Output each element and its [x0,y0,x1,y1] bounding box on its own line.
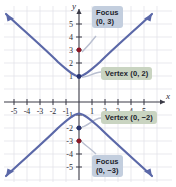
x-axis [4,99,165,105]
point-vertex-top [77,74,82,79]
x-tick--5: -5 [11,107,18,116]
hyperbola-figure: .gridline{stroke:#dfdfe6;stroke-width:0.… [0,0,176,187]
y-tick-2: 2 [69,59,73,68]
x-tick--4: -4 [24,107,31,116]
label-focus-bottom: Focus (0, −3) [92,155,123,177]
y-axis [76,9,82,180]
x-tick-1: 1 [90,107,94,116]
label-focus-top: Focus (0, 3) [92,6,123,28]
y-tick-3: 3 [69,46,73,55]
label-focus-bottom-line2: (0, −3) [96,166,119,175]
y-tick--4: -4 [66,150,73,159]
point-vertex-bottom [77,126,82,131]
y-tick-4: 4 [69,33,73,42]
label-focus-bottom-line1: Focus [96,157,119,166]
label-vertex-top: Vertex (0, 2) [101,67,152,80]
y-tick-5: 5 [69,20,73,29]
y-tick--5: -5 [66,163,73,172]
leader-lines [82,36,101,154]
label-focus-top-line2: (0, 3) [96,17,119,26]
y-tick--2: -2 [66,124,73,133]
label-focus-top-line1: Focus [96,8,119,17]
x-tick--3: -3 [37,107,44,116]
y-tick-labels: 5 4 3 2 1 -1 -2 -3 -4 -5 [66,20,73,172]
graph-canvas: .gridline{stroke:#dfdfe6;stroke-width:0.… [0,0,176,187]
x-tick--2: -2 [50,107,57,116]
y-tick--3: -3 [66,137,73,146]
y-axis-label: y [71,1,76,11]
point-focus-top [77,48,82,53]
label-vertex-bottom: Vertex (0, −2) [101,111,157,124]
point-focus-bottom [77,139,82,144]
x-axis-label: x [165,91,170,101]
